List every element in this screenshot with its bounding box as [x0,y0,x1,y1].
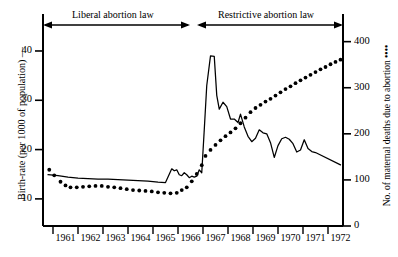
birth-rate-line [48,56,341,183]
birth-rate-abortion-deaths-chart: Birth-rate (per 1000 of population) — No… [0,0,398,257]
data-dot [190,179,194,183]
data-dot [274,94,278,98]
data-dot [269,97,273,101]
data-dot [59,180,63,184]
left-tick-label: 20 [12,143,32,154]
data-dot [299,78,303,82]
data-dot [234,126,238,130]
data-dot [162,191,166,195]
data-dot [137,189,141,193]
data-dot [69,185,73,189]
data-dot [81,185,85,189]
restrictive-band-arrow [197,22,343,29]
data-dot [304,76,308,80]
data-dot [264,100,268,104]
data-dot [279,90,283,94]
right-tick-label: 0 [354,219,359,230]
right-axis-title: No. of maternal deaths due to abortion •… [381,26,392,226]
data-dot [254,106,258,110]
data-dot [259,103,263,107]
x-tick-label: 1972 [325,232,357,243]
data-dot [214,143,218,147]
data-dot [324,65,328,69]
data-dot [156,190,160,194]
left-tick-label: 40 [12,44,32,55]
data-dot [175,191,179,195]
data-dot [229,131,233,135]
data-dot [185,185,189,189]
data-dot [334,60,338,64]
data-dot [224,134,228,138]
data-dot [329,62,333,66]
data-dot [284,87,288,91]
data-dot [64,184,68,188]
data-dot [294,81,298,85]
data-dot [75,185,79,189]
maternal-deaths-dotted-series [47,58,342,195]
data-dot [180,188,184,192]
data-dot [47,168,51,172]
right-tick-label: 300 [354,81,370,92]
left-tick-label: 30 [12,93,32,104]
data-dot [100,184,104,188]
right-tick-label: 100 [354,173,370,184]
data-dot [87,184,91,188]
data-dot [131,188,135,192]
left-axis-title: Birth-rate (per 1000 of population) — [16,29,27,219]
data-dot [244,116,248,120]
data-dot [309,73,313,77]
data-dot [339,58,343,62]
data-dot [52,173,56,177]
data-dot [249,110,253,114]
data-dot [319,67,323,71]
data-dot [119,186,123,190]
data-dot [314,70,318,74]
chart-plot-area [0,0,398,257]
data-dot [169,191,173,195]
right-axis-ticks [343,42,351,226]
liberal-band-label: Liberal abortion law [72,9,154,20]
data-dot [239,121,243,125]
data-dot [209,148,213,152]
data-dot [200,163,204,167]
data-dot [125,187,129,191]
restrictive-band-label: Restrictive abortion law [218,9,314,20]
data-dot [289,84,293,88]
data-dot [219,138,223,142]
data-dot [106,185,110,189]
data-dot [112,185,116,189]
data-dot [204,154,208,158]
liberal-band-arrow [43,22,190,29]
right-tick-label: 400 [354,35,370,46]
data-dot [150,190,154,194]
data-dot [144,189,148,193]
right-tick-label: 200 [354,127,370,138]
left-tick-label: 10 [12,192,32,203]
left-axis-ticks [35,51,43,199]
data-dot [94,184,98,188]
data-dot [195,172,199,176]
